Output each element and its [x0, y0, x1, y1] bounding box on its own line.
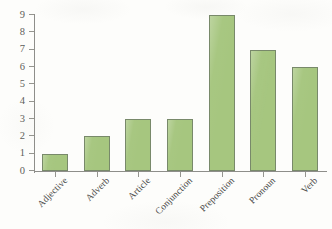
- x-axis-tick: [55, 172, 56, 177]
- y-axis-tick: 4: [29, 101, 34, 102]
- y-axis-tick: 8: [29, 31, 34, 32]
- x-axis-label: Adverb: [84, 176, 111, 203]
- bar: [167, 119, 193, 171]
- y-axis-tick-label: 1: [20, 148, 25, 159]
- y-axis-tick-label: 7: [20, 44, 25, 55]
- x-axis-label: Adjective: [36, 176, 69, 209]
- plot-area: 0123456789: [34, 16, 326, 172]
- bar: [125, 119, 151, 171]
- bar: [292, 67, 318, 171]
- chart-page: 0123456789 AdjectiveAdverbArticleConjunc…: [0, 0, 332, 229]
- y-axis-tick: 3: [29, 118, 34, 119]
- bar: [209, 15, 235, 171]
- x-axis-label: Verb: [300, 176, 320, 196]
- x-axis-tick: [180, 172, 181, 177]
- y-axis-tick-label: 6: [20, 61, 25, 72]
- y-axis-tick-label: 5: [20, 79, 25, 90]
- y-axis-tick-label: 2: [20, 131, 25, 142]
- x-axis-label: Conjunction: [154, 176, 195, 217]
- y-axis-tick-label: 0: [20, 165, 25, 176]
- y-axis-tick: 9: [29, 14, 34, 15]
- y-axis-tick: 0: [29, 170, 34, 171]
- x-axis-label: Pronoun: [248, 176, 278, 206]
- x-axis-label: Article: [127, 176, 153, 202]
- x-axis-tick: [97, 172, 98, 177]
- bar: [84, 136, 110, 171]
- y-axis-tick-label: 9: [20, 9, 25, 20]
- x-axis-tick: [222, 172, 223, 177]
- x-axis-tick: [305, 172, 306, 177]
- y-axis-tick-label: 4: [20, 96, 25, 107]
- bar: [250, 50, 276, 171]
- x-axis-tick: [263, 172, 264, 177]
- x-axis-tick: [138, 172, 139, 177]
- y-axis-tick: 6: [29, 66, 34, 67]
- y-axis-tick: 1: [29, 153, 34, 154]
- y-axis-tick: 5: [29, 83, 34, 84]
- bar: [42, 154, 68, 171]
- x-axis-label: Preposition: [198, 176, 236, 214]
- y-axis-line: [34, 14, 35, 173]
- y-axis-tick: 2: [29, 135, 34, 136]
- y-axis-tick-label: 8: [20, 27, 25, 38]
- y-axis-tick-label: 3: [20, 113, 25, 124]
- y-axis-tick: 7: [29, 49, 34, 50]
